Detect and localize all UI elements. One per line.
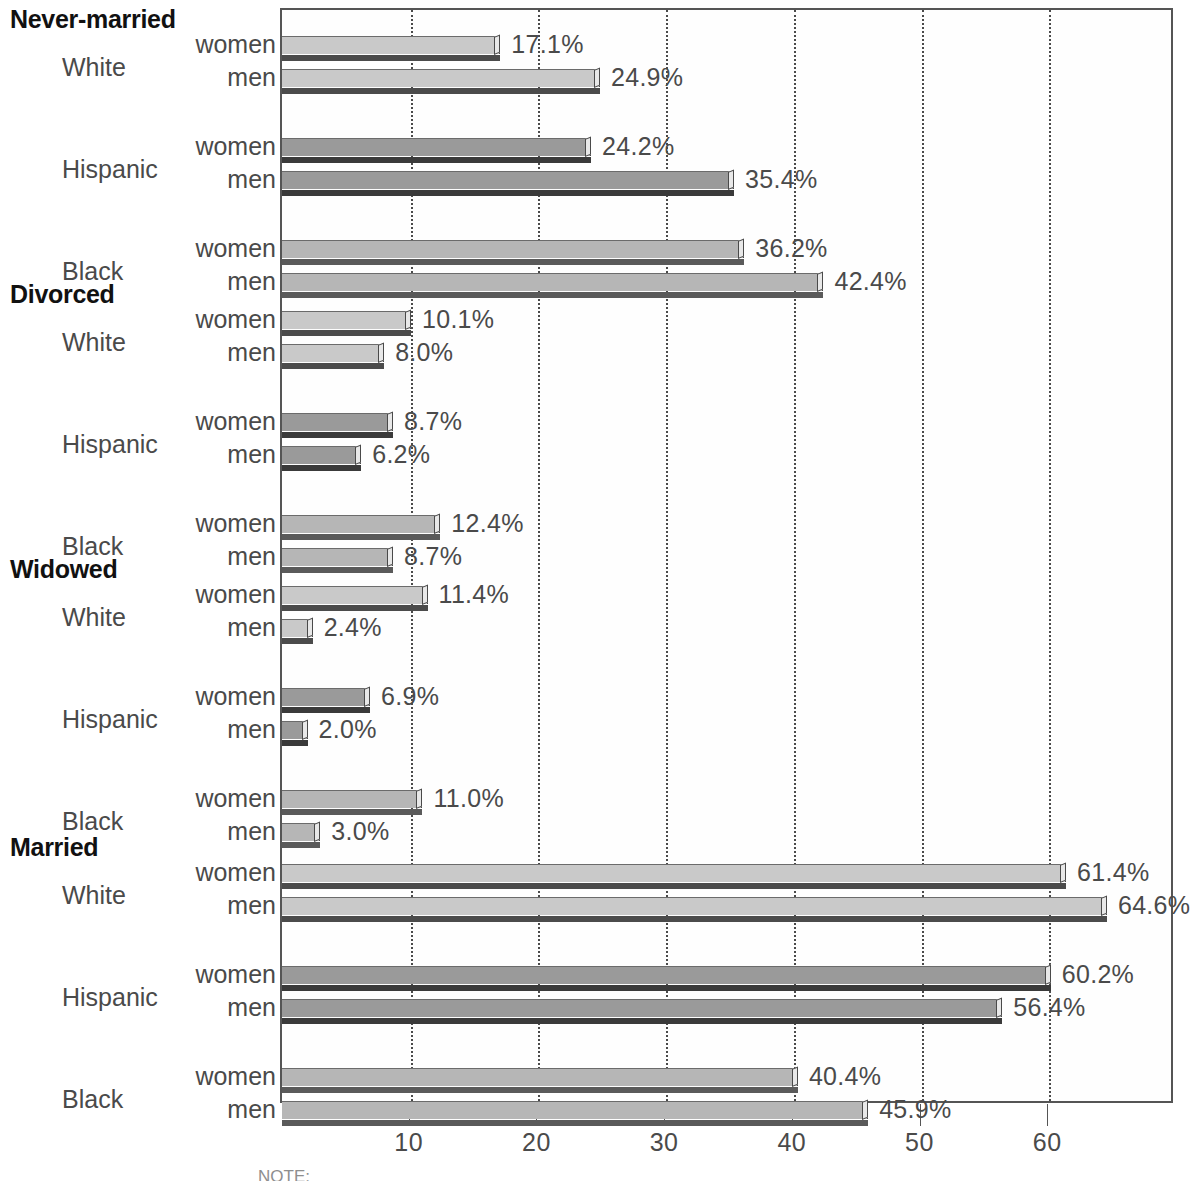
race-label-white: White — [62, 881, 126, 910]
bar-value-label: 60.2% — [1062, 960, 1134, 989]
panel-title-widowed: Widowed — [10, 555, 117, 584]
bar-value-label: 42.4% — [834, 267, 906, 296]
bar-value-label: 8.7% — [404, 407, 462, 436]
sex-label-women: women — [156, 1062, 276, 1091]
sex-label-women: women — [156, 234, 276, 263]
bar — [282, 619, 313, 637]
bar — [282, 721, 308, 739]
sex-label-women: women — [156, 132, 276, 161]
sex-label-women: women — [156, 305, 276, 334]
bar — [282, 999, 1002, 1017]
panel-title-divorced: Divorced — [10, 280, 115, 309]
sex-label-men: men — [156, 891, 276, 920]
bar — [282, 138, 591, 156]
gridline-60 — [1049, 10, 1051, 1101]
sex-label-men: men — [156, 993, 276, 1022]
x-tick-label-60: 60 — [1033, 1128, 1062, 1157]
bar-value-label: 40.4% — [809, 1062, 881, 1091]
bar-value-label: 56.4% — [1013, 993, 1085, 1022]
x-tick-label-30: 30 — [650, 1128, 679, 1157]
race-label-hispanic: Hispanic — [62, 705, 158, 734]
bar — [282, 823, 320, 841]
bar-value-label: 11.0% — [433, 784, 504, 813]
bar — [282, 688, 370, 706]
bar-value-label: 2.0% — [319, 715, 377, 744]
chart-footnote: NOTE: — [258, 1167, 310, 1181]
sex-label-men: men — [156, 613, 276, 642]
race-label-black: Black — [62, 807, 123, 836]
x-tick-label-10: 10 — [394, 1128, 423, 1157]
bar — [282, 69, 600, 87]
bar-value-label: 17.1% — [511, 30, 583, 59]
bar — [282, 36, 500, 54]
sex-label-women: women — [156, 682, 276, 711]
bar — [282, 864, 1066, 882]
bar-value-label: 6.2% — [372, 440, 430, 469]
x-tick-label-40: 40 — [777, 1128, 806, 1157]
bar-value-label: 61.4% — [1077, 858, 1149, 887]
bar-value-label: 3.0% — [331, 817, 389, 846]
bar-value-label: 10.1% — [422, 305, 494, 334]
bar-value-label: 64.6% — [1118, 891, 1190, 920]
sex-label-women: women — [156, 858, 276, 887]
race-label-black: Black — [62, 1085, 123, 1114]
bar — [282, 966, 1051, 984]
bar-value-label: 8.0% — [395, 338, 453, 367]
bar-value-label: 8.7% — [404, 542, 462, 571]
x-tick-label-50: 50 — [905, 1128, 934, 1157]
gridline-50 — [922, 10, 924, 1101]
race-label-hispanic: Hispanic — [62, 155, 158, 184]
bar — [282, 515, 440, 533]
bar-value-label: 6.9% — [381, 682, 439, 711]
bar — [282, 1101, 868, 1119]
sex-label-men: men — [156, 63, 276, 92]
sex-label-men: men — [156, 440, 276, 469]
sex-label-men: men — [156, 165, 276, 194]
x-tick-label-20: 20 — [522, 1128, 551, 1157]
bar — [282, 586, 428, 604]
bar — [282, 446, 361, 464]
panel-title-married: Married — [10, 833, 98, 862]
sex-label-men: men — [156, 338, 276, 367]
sex-label-women: women — [156, 580, 276, 609]
bar — [282, 897, 1107, 915]
sex-label-men: men — [156, 715, 276, 744]
bar — [282, 344, 384, 362]
bar — [282, 273, 823, 291]
sex-label-men: men — [156, 1095, 276, 1124]
x-tick-60 — [1047, 1104, 1048, 1126]
race-label-white: White — [62, 53, 126, 82]
race-label-white: White — [62, 328, 126, 357]
sex-label-men: men — [156, 817, 276, 846]
panel-title-never-married: Never-married — [10, 5, 176, 34]
sex-label-women: women — [156, 784, 276, 813]
bar — [282, 413, 393, 431]
bar-value-label: 36.2% — [755, 234, 827, 263]
bar — [282, 171, 734, 189]
bar — [282, 240, 744, 258]
sex-label-women: women — [156, 407, 276, 436]
race-label-hispanic: Hispanic — [62, 983, 158, 1012]
bar — [282, 790, 422, 808]
race-label-white: White — [62, 603, 126, 632]
bar-value-label: 24.9% — [611, 63, 683, 92]
bar-value-label: 2.4% — [324, 613, 382, 642]
sex-label-men: men — [156, 267, 276, 296]
race-label-hispanic: Hispanic — [62, 430, 158, 459]
bar — [282, 1068, 798, 1086]
sex-label-women: women — [156, 960, 276, 989]
bar — [282, 548, 393, 566]
bar-value-label: 12.4% — [451, 509, 523, 538]
sex-label-men: men — [156, 542, 276, 571]
bar-value-label: 11.4% — [439, 580, 510, 609]
bar-value-label: 24.2% — [602, 132, 674, 161]
sex-label-women: women — [156, 30, 276, 59]
bar — [282, 311, 411, 329]
bar-value-label: 35.4% — [745, 165, 817, 194]
bar-value-label: 45.9% — [879, 1095, 951, 1124]
sex-label-women: women — [156, 509, 276, 538]
